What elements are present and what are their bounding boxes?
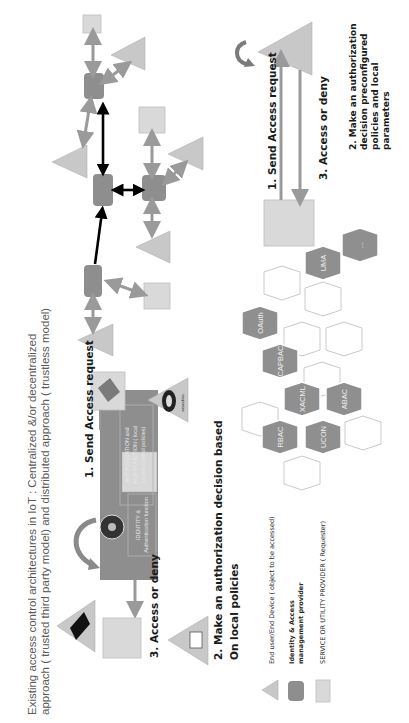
empty-hexagon	[326, 322, 362, 356]
end-device-triangle	[136, 231, 170, 263]
trustless-step-2-line-3: policies and local	[370, 62, 380, 150]
hex-label-abac: ABAC	[340, 388, 349, 409]
service-provider-square	[83, 15, 101, 33]
wearable-center	[166, 395, 172, 407]
service-provider-square	[103, 618, 141, 658]
legend-iam-label-2: management provider	[297, 582, 305, 664]
identity-text-2: Authentication function	[143, 497, 149, 553]
legend-end-device-label: End user/End Device ( object to be acces…	[268, 516, 276, 664]
title-line-2: approach ( trusted third party model) an…	[39, 308, 51, 715]
centralized-step-1: 1. Send Access request	[83, 340, 95, 478]
self-decision-arrow-icon	[237, 42, 246, 64]
trustless-model: 1. Send Access request 3. Access or deny…	[237, 22, 391, 246]
trustless-step-2-line-4: parameters	[381, 91, 391, 150]
end-device-triangle	[111, 37, 145, 70]
service-provider-square	[264, 200, 314, 246]
hex-label-xacml: XACML	[298, 386, 307, 412]
empty-hexagon	[345, 416, 381, 450]
link-arrow	[106, 66, 125, 80]
curved-arrow-icon	[76, 520, 96, 565]
hex-label-oauth: OAuth	[256, 312, 265, 333]
empty-hexagon	[284, 456, 320, 490]
legend-square-icon	[316, 680, 330, 702]
link-arrow	[168, 166, 182, 180]
hex-label-ucon: UCON	[319, 426, 328, 448]
authz-text-3: access control policies)	[140, 426, 146, 483]
trustless-step-2-line-2: decision preconfigured	[359, 33, 369, 150]
authz-text-1: AUTHORIZATION and	[124, 427, 130, 482]
legend-triangle-icon	[262, 680, 278, 700]
iam-node	[93, 174, 113, 206]
hex-label-more: ...	[356, 242, 365, 248]
centralized-step-3: 3. Access or deny	[148, 554, 160, 658]
trust-link-arrow	[95, 212, 102, 264]
centralized-step-2-line-2: On local policies	[228, 563, 240, 660]
hex-label-uma: UMA	[319, 255, 328, 272]
globe-center	[108, 523, 116, 531]
centralized-model: AUTHORIZATION and ACM FUNCTION ( local a…	[57, 340, 240, 665]
distributed-network	[52, 15, 203, 356]
access-control-diagram: Existing access control architectures in…	[0, 0, 409, 723]
legend: End user/End Device ( object to be acces…	[262, 516, 330, 702]
end-device-triangle	[52, 145, 87, 178]
arrowhead-icon	[88, 558, 100, 570]
iam-node	[84, 265, 102, 297]
wearable-label: wearables	[181, 394, 185, 412]
centralized-step-2-line-1: 2. Make an authorization decision based	[212, 420, 224, 660]
hex-label-rbac: RBAC	[276, 426, 285, 447]
legend-octagon-icon	[288, 681, 304, 701]
laptop-icon	[190, 632, 202, 648]
legend-iam-label-1: Identity & Access	[288, 600, 296, 664]
title-line-1: Existing access control architectures in…	[26, 334, 38, 715]
iam-node	[84, 73, 104, 99]
trustless-step-3: 3. Access or deny	[317, 76, 329, 180]
hex-label-capbac: CAPBAC	[276, 345, 285, 376]
link-arrow	[112, 283, 140, 293]
trustless-step-2-line-1: 2. Make an authorization	[348, 23, 358, 150]
identity-text-1: IDENTITY &	[135, 510, 141, 540]
iam-node	[142, 175, 166, 201]
empty-hexagon	[264, 266, 300, 300]
empty-hexagon	[305, 282, 341, 316]
diagram-title: Existing access control architectures in…	[26, 308, 51, 715]
trustless-step-1: 1. Send Access request	[266, 52, 278, 190]
link-arrow	[84, 104, 90, 140]
legend-service-label: SERVICE OR UTILITY PROVIDER ( Requester)	[319, 521, 327, 664]
access-control-models-hexagons: OAuth UMA CAPBAC XACML ABAC RBAC UCON ..…	[242, 228, 381, 490]
service-provider-square	[144, 283, 170, 309]
authz-text-2: ACM FUNCTION ( local	[132, 426, 138, 484]
end-device-triangle	[168, 137, 203, 170]
service-provider-square	[139, 107, 165, 133]
